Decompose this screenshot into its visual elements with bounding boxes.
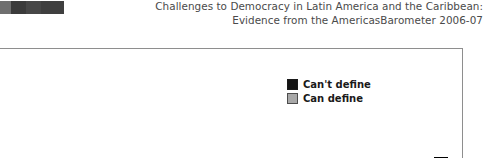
legend-label-can-define: Can define [303, 93, 363, 104]
chart-legend: Can't define Can define [287, 78, 371, 104]
legend-label-cant-define: Can't define [303, 79, 371, 90]
page-title-line-1: Challenges to Democracy in Latin America… [105, 0, 483, 13]
bar-19-dark [434, 157, 448, 158]
legend-item-can-define: Can define [287, 92, 371, 104]
legend-swatch-can-define-icon [287, 93, 298, 104]
legend-item-cant-define: Can't define [287, 78, 371, 90]
publisher-logo [0, 1, 64, 14]
chart-panel: Can't define Can define [0, 48, 463, 158]
page-header: Challenges to Democracy in Latin America… [0, 0, 485, 44]
page-title: Challenges to Democracy in Latin America… [105, 0, 483, 28]
page-title-line-2: Evidence from the AmericasBarometer 2006… [105, 13, 483, 27]
bar-chart-plot-area [0, 94, 462, 158]
legend-swatch-cant-define-icon [287, 79, 298, 90]
